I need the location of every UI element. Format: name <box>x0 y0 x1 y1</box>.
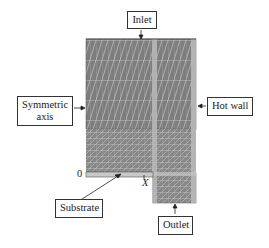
hot-wall-strip <box>191 39 196 203</box>
hot-wall-label: Hot wall <box>207 97 253 116</box>
outlet-label: Outlet <box>158 216 193 235</box>
substrate-label: Substrate <box>55 199 103 218</box>
mesh-upper <box>86 39 196 129</box>
divider-strip <box>152 39 157 203</box>
mesh-lower <box>86 129 196 173</box>
mesh-diagram: Inlet Symmetric axis Hot wall Substrate … <box>0 0 269 248</box>
x-axis-label: X <box>142 177 148 188</box>
symmetric-axis-label: Symmetric axis <box>17 96 73 126</box>
inlet-label: Inlet <box>127 11 157 29</box>
origin-label: 0 <box>77 168 82 179</box>
mesh-outlet <box>153 173 196 203</box>
symmetric-axis-line1: Symmetric <box>22 99 68 111</box>
symmetric-axis-line2: axis <box>22 111 68 123</box>
